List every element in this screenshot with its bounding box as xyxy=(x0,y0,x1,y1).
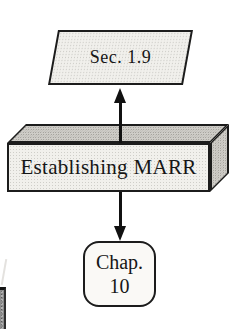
arrow-down-head xyxy=(114,226,126,241)
marr-box-label: Establishing MARR xyxy=(7,143,210,192)
page-edge-artifact-bar xyxy=(0,287,6,329)
node-chap-10: Chap. 10 xyxy=(83,241,156,307)
arrow-up-shaft xyxy=(119,101,122,145)
flow-diagram: Sec. 1.9 Establishing MARR Chap. 10 xyxy=(0,0,244,329)
node-sec-1-9-label: Sec. 1.9 xyxy=(53,30,188,85)
arrow-down-shaft xyxy=(119,190,122,226)
page-edge-artifact-line xyxy=(1,259,7,285)
